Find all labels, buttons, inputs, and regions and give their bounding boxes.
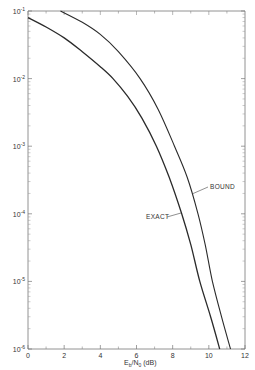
curves (28, 11, 231, 349)
y-tick-label: 10-5 (13, 276, 25, 285)
x-tick-label: 6 (135, 352, 139, 359)
x-tick-label: 4 (98, 352, 102, 359)
x-tick-label: 12 (241, 352, 249, 359)
chart: 024681012 10-110-210-310-410-510-6 EXACT… (0, 0, 255, 370)
bound-annotation: BOUND (192, 183, 235, 194)
y-tick-label: 10-3 (13, 141, 25, 150)
axes-frame (28, 11, 245, 349)
x-tick-label: 10 (205, 352, 213, 359)
y-tick-label: 10-1 (13, 6, 25, 15)
y-tick-label: 10-6 (13, 344, 25, 353)
bound-label: BOUND (210, 183, 235, 190)
exact-annotation: EXACT (146, 213, 181, 220)
bound-leader-line (192, 187, 208, 194)
y-axis-ticks: 10-110-210-310-410-510-6 (13, 6, 245, 353)
x-axis-label: Eb/N0(dB) (124, 359, 156, 368)
x-tick-label: 2 (62, 352, 66, 359)
exact-curve (28, 18, 220, 349)
y-tick-label: 10-2 (13, 74, 25, 83)
x-tick-label: 0 (26, 352, 30, 359)
y-tick-label: 10-4 (13, 209, 25, 218)
exact-label: EXACT (146, 213, 169, 220)
x-tick-label: 8 (171, 352, 175, 359)
